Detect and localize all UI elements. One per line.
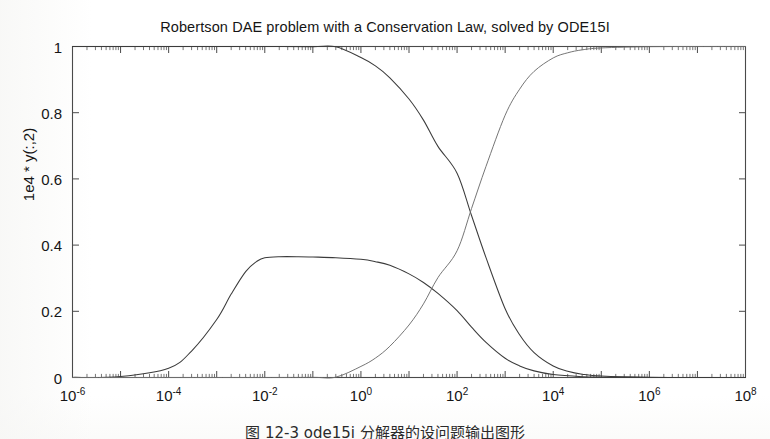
figure-caption: 图 12-3 ode15i 分解器的设问题输出图形 <box>0 421 770 439</box>
y-tick-label-3: 0.6 <box>18 170 62 187</box>
y-tick-label-4: 0.8 <box>18 104 62 121</box>
plot-border <box>73 47 746 378</box>
x-tick-mantissa: 10 <box>156 387 173 404</box>
x-tick-label-1: 10-4 <box>156 386 182 404</box>
x-tick-label-0: 10-6 <box>60 386 86 404</box>
x-tick-label-5: 104 <box>542 386 564 404</box>
x-tick-label-3: 100 <box>350 386 372 404</box>
x-tick-exponent: 6 <box>655 386 661 397</box>
x-tick-mantissa: 10 <box>638 387 655 404</box>
x-tick-mantissa: 10 <box>542 387 559 404</box>
x-tick-mantissa: 10 <box>60 387 77 404</box>
y-tick-label-2: 0.4 <box>18 237 62 254</box>
x-tick-mantissa: 10 <box>734 387 751 404</box>
matlab-figure: Robertson DAE problem with a Conservatio… <box>0 0 770 439</box>
x-tick-exponent: -4 <box>173 386 182 397</box>
x-tick-label-7: 108 <box>734 386 756 404</box>
scanned-figure-page: Robertson DAE problem with a Conservatio… <box>0 0 770 439</box>
x-tick-mantissa: 10 <box>446 387 463 404</box>
x-tick-exponent: -2 <box>269 386 278 397</box>
x-tick-exponent: 0 <box>366 386 372 397</box>
plot-canvas <box>0 0 770 439</box>
curve-series-0 <box>73 46 746 378</box>
curve-series-1 <box>73 257 746 378</box>
x-tick-exponent: 8 <box>751 386 757 397</box>
x-tick-label-2: 10-2 <box>252 386 278 404</box>
x-tick-mantissa: 10 <box>350 387 367 404</box>
x-tick-exponent: 2 <box>463 386 469 397</box>
y-tick-label-1: 0.2 <box>18 303 62 320</box>
axes-box <box>73 47 746 378</box>
data-curves <box>73 46 746 378</box>
y-tick-label-5: 1 <box>18 38 62 55</box>
x-tick-label-4: 102 <box>446 386 468 404</box>
x-tick-exponent: -6 <box>76 386 85 397</box>
x-tick-mantissa: 10 <box>252 387 269 404</box>
x-tick-exponent: 4 <box>559 386 565 397</box>
axis-ticks <box>73 47 746 378</box>
curve-series-2 <box>73 46 746 378</box>
x-tick-label-6: 106 <box>638 386 660 404</box>
y-tick-label-0: 0 <box>18 369 62 386</box>
